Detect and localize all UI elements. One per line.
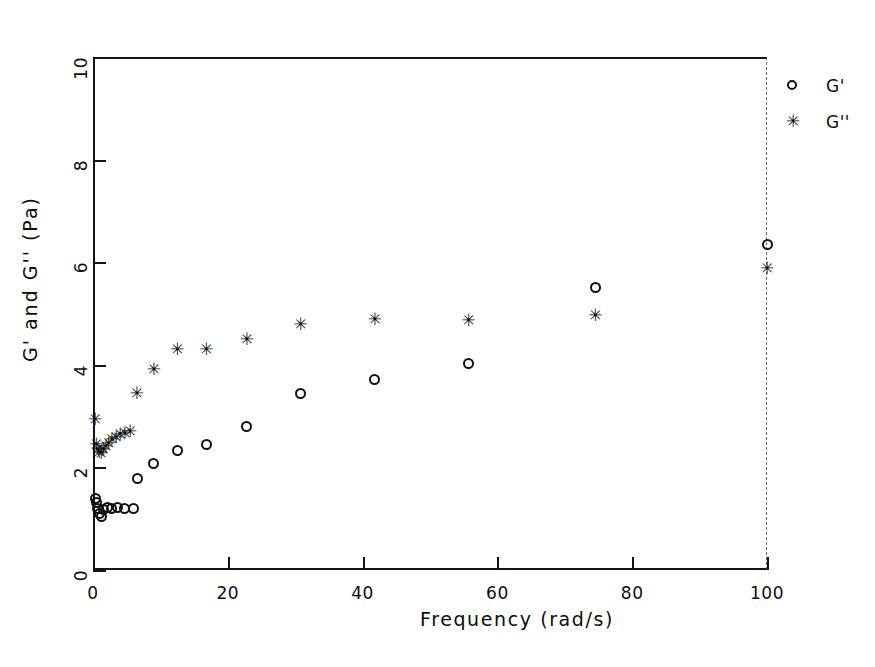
- data-point-Gp-14: [201, 439, 212, 450]
- data-point-Gpp-16: [199, 342, 213, 356]
- data-point-Gp-10: [128, 503, 139, 514]
- x-tick-60: [497, 557, 499, 570]
- data-point-Gpp-15: [170, 342, 184, 356]
- data-point-Gpp-14: [147, 362, 161, 376]
- x-tick-label-40: 40: [333, 583, 393, 603]
- data-point-Gpp-22: [760, 261, 774, 275]
- y-axis-title: G' and G'' (Pa): [19, 99, 41, 459]
- x-tick-label-100: 100: [737, 583, 797, 603]
- data-point-Gp-19: [590, 282, 601, 293]
- x-tick-0: [93, 557, 95, 570]
- y-tick-2: [93, 467, 106, 469]
- y-tick-label-6: 6: [71, 262, 91, 302]
- data-point-Gpp-12: [123, 424, 137, 438]
- legend-marker-open-circle: [787, 80, 797, 90]
- data-point-Gp-20: [762, 239, 773, 250]
- data-point-Gp-15: [241, 421, 252, 432]
- x-tick-label-80: 80: [602, 583, 662, 603]
- y-tick-label-8: 8: [71, 160, 91, 200]
- x-tick-label-60: 60: [467, 583, 527, 603]
- x-tick-label-0: 0: [63, 583, 123, 603]
- y-tick-0: [93, 570, 106, 572]
- legend-marker-asterisk: [786, 114, 800, 128]
- data-point-Gp-13: [172, 445, 183, 456]
- data-point-Gp-17: [369, 374, 380, 385]
- data-point-Gpp-17: [240, 332, 254, 346]
- data-point-Gp-16: [295, 388, 306, 399]
- x-tick-100: [767, 557, 769, 570]
- y-tick-label-10: 10: [71, 57, 91, 97]
- y-tick-4: [93, 365, 106, 367]
- data-point-Gpp-20: [461, 313, 475, 327]
- y-tick-8: [93, 160, 106, 162]
- y-tick-10: [93, 57, 106, 59]
- y-tick-label-4: 4: [71, 365, 91, 405]
- legend-label-0: G': [826, 76, 845, 96]
- x-axis-title: Frequency (rad/s): [420, 608, 614, 630]
- figure-canvas: G' and G'' (Pa) Frequency (rad/s) G'G'' …: [0, 0, 875, 667]
- legend-label-1: G'': [826, 112, 850, 132]
- data-point-Gpp-21: [588, 308, 602, 322]
- data-point-Gpp-13: [130, 386, 144, 400]
- data-point-Gpp-18: [294, 317, 308, 331]
- x-tick-label-20: 20: [198, 583, 258, 603]
- data-point-Gpp-0: [88, 412, 102, 426]
- y-tick-6: [93, 262, 106, 264]
- plot-frame: [93, 57, 767, 570]
- y-tick-label-2: 2: [71, 467, 91, 507]
- x-tick-20: [228, 557, 230, 570]
- data-point-Gpp-19: [368, 312, 382, 326]
- x-tick-40: [363, 557, 365, 570]
- x-tick-80: [632, 557, 634, 570]
